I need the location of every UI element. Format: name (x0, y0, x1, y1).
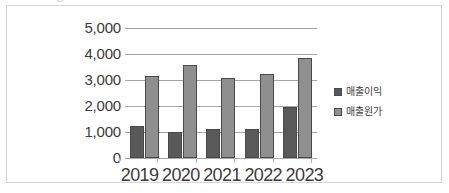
y-axis-tick-label: 0 (63, 150, 121, 165)
category-tick (311, 158, 312, 163)
legend-item[interactable]: 매출원가 (334, 106, 414, 117)
legend-swatch (334, 88, 342, 96)
bar (183, 65, 197, 158)
y-axis-tick-label: 4,000 (63, 46, 121, 61)
legend-swatch (334, 108, 342, 116)
bar (260, 74, 274, 159)
bar (221, 78, 235, 158)
bar (145, 76, 159, 158)
x-axis-category-labels: 20192020202120222023 (119, 164, 325, 188)
legend-label: 매출원가 (346, 106, 382, 117)
bar (130, 126, 144, 158)
plot-area (125, 28, 317, 158)
bar (245, 129, 259, 158)
y-axis-tick-label: 5,000 (63, 20, 121, 35)
category-tick (273, 158, 274, 163)
y-axis-tick-label: 1,000 (63, 124, 121, 139)
bar-group (202, 28, 240, 158)
bar (206, 129, 220, 158)
x-axis-category-label: 2020 (160, 164, 201, 188)
x-axis-line (125, 158, 317, 159)
bar (298, 58, 312, 158)
x-axis-category-label: 2021 (201, 164, 242, 188)
legend-item[interactable]: 매출이익 (334, 86, 414, 97)
bar-group (125, 28, 163, 158)
y-axis-tick-labels: 5,0004,0003,0002,0001,0000 (59, 28, 121, 158)
category-tick (157, 158, 158, 163)
y-axis-tick-label: 3,000 (63, 72, 121, 87)
chart-legend: 매출이익매출원가 (334, 86, 414, 126)
y-axis-tick-label: 2,000 (63, 98, 121, 113)
x-axis-category-label: 2022 (243, 164, 284, 188)
x-axis-category-label: 2019 (119, 164, 160, 188)
bar-group (240, 28, 278, 158)
bar-group (163, 28, 201, 158)
category-tick (196, 158, 197, 163)
category-tick (234, 158, 235, 163)
category-tick (119, 158, 120, 163)
chart-frame: 5,0004,0003,0002,0001,0000 2019202020212… (6, 5, 442, 183)
bar-group (279, 28, 317, 158)
x-axis-category-label: 2023 (284, 164, 325, 188)
bar (283, 107, 297, 158)
chart-screenshot: ㅁ 5,0004,0003,0002,0001,0000 20192020202… (0, 0, 449, 193)
bar (168, 132, 182, 158)
legend-label: 매출이익 (346, 86, 382, 97)
